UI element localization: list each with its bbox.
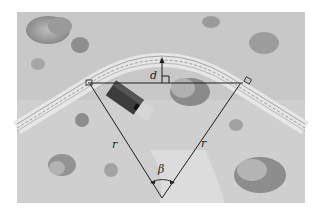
radius-right-label: r (201, 137, 207, 150)
road-curve-diagram: d r r β (0, 0, 320, 215)
angle-label: β (157, 163, 164, 176)
radius-left-label: r (112, 138, 118, 151)
distance-label: d (150, 69, 157, 82)
